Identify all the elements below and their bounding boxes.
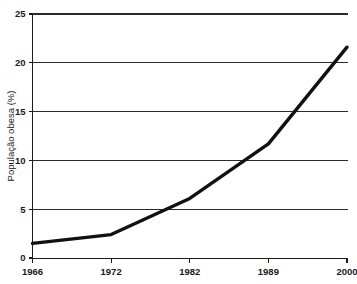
- y-tick-label: 20: [15, 57, 26, 68]
- line-chart: 0510152025 19661972198219892000 Populaçã…: [0, 0, 357, 284]
- y-axis-title: População obesa (%): [5, 91, 16, 182]
- chart-figure: 0510152025 19661972198219892000 Populaçã…: [0, 0, 357, 284]
- y-tick-label: 25: [15, 8, 26, 19]
- x-tick-label: 1966: [22, 266, 43, 277]
- x-tick-label: 2000: [336, 266, 357, 277]
- x-tick-label: 1989: [258, 266, 279, 277]
- y-tick-label: 0: [20, 252, 25, 263]
- x-tick-label: 1982: [179, 266, 200, 277]
- y-tick-label: 5: [20, 204, 26, 215]
- y-tick-label: 10: [15, 155, 26, 166]
- y-tick-label: 15: [15, 106, 26, 117]
- x-tick-label: 1972: [101, 266, 122, 277]
